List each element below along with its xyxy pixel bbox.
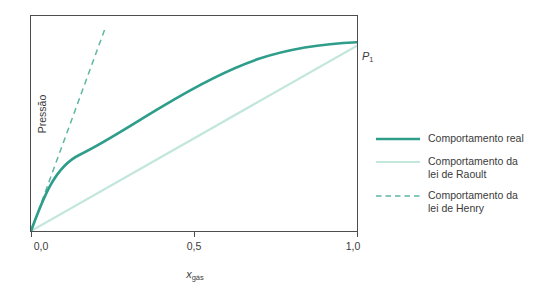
plot-area: 0,0 0,5 1,0 Pressão xgás <box>30 15 358 232</box>
legend-swatch-solid-thick-icon <box>376 132 420 146</box>
p1-annotation: P1 <box>362 50 374 64</box>
legend-item-henry: Comportamento da lei de Henry <box>376 189 534 214</box>
x-axis-label: xgás <box>31 268 359 282</box>
p1-annotation-subscript: 1 <box>369 55 373 64</box>
plot-curves <box>31 16 357 231</box>
tick-label-0-0: 0,0 <box>34 240 49 252</box>
legend-label-henry: Comportamento da lei de Henry <box>428 189 518 214</box>
legend-item-raoult: Comportamento da lei de Raoult <box>376 155 534 180</box>
legend-label-raoult: Comportamento da lei de Raoult <box>428 155 518 180</box>
x-axis-label-subscript: gás <box>192 273 204 282</box>
raoult-law-line <box>31 46 357 231</box>
y-axis-label: Pressão <box>36 59 48 169</box>
legend-swatch-dashed-icon <box>376 189 420 203</box>
tick-mark-0 <box>31 232 32 237</box>
legend-item-real: Comportamento real <box>376 132 534 146</box>
chart-legend: Comportamento real Comportamento da lei … <box>376 132 534 223</box>
tick-mark-1-0 <box>357 232 358 237</box>
tick-label-1-0: 1,0 <box>346 240 361 252</box>
tick-label-0-5: 0,5 <box>187 240 202 252</box>
tick-mark-0-5 <box>194 232 195 237</box>
legend-label-real: Comportamento real <box>428 132 524 145</box>
legend-swatch-solid-thin-icon <box>376 155 420 169</box>
